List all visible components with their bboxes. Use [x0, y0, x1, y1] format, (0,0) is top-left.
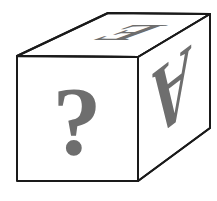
cube-figure: E A ? — [0, 0, 217, 201]
front-face-label: ? — [53, 67, 102, 175]
cube-drawing: E A ? — [0, 0, 217, 201]
